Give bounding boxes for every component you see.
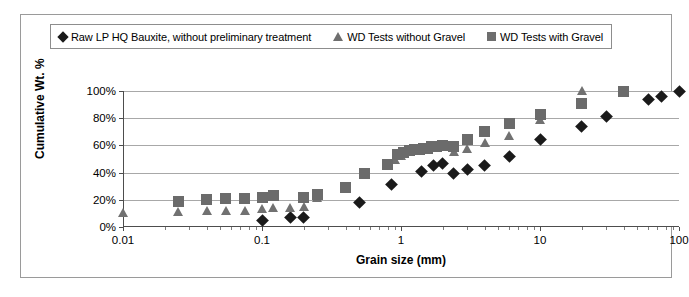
data-point <box>462 134 473 145</box>
x-tick-minor <box>624 227 625 230</box>
x-tick-minor <box>359 227 360 230</box>
x-tick-minor <box>370 227 371 230</box>
chart-legend: Raw LP HQ Bauxite, without preliminary t… <box>50 24 612 49</box>
x-tick-minor <box>165 227 166 230</box>
triangle-marker-icon <box>333 32 343 41</box>
data-point <box>173 196 184 207</box>
x-tick-minor <box>534 227 535 230</box>
data-point <box>382 159 393 170</box>
x-tick-minor <box>467 227 468 230</box>
x-tick-minor <box>666 227 667 230</box>
plot-area: 0%20%40%60%80%100% 0.010.1110100 <box>123 91 679 227</box>
y-tick-label: 0% <box>99 221 116 233</box>
data-point <box>285 203 295 212</box>
data-point <box>618 86 629 97</box>
x-tick-minor <box>485 227 486 230</box>
data-point <box>577 86 587 95</box>
x-tick-minor <box>509 227 510 230</box>
data-point <box>268 190 279 201</box>
gridline <box>123 173 679 174</box>
gridline <box>123 91 679 92</box>
data-point <box>173 207 183 216</box>
x-tick-minor <box>189 227 190 230</box>
diamond-marker-icon <box>57 31 68 42</box>
data-point <box>535 109 546 120</box>
data-point <box>340 182 351 193</box>
y-tick-label: 40% <box>93 167 116 179</box>
data-point <box>448 141 459 152</box>
x-tick-minor <box>443 227 444 230</box>
x-tick-minor <box>582 227 583 230</box>
x-tick-minor <box>606 227 607 230</box>
legend-item-wd-tests-with-gravel[interactable]: WD Tests with Gravel <box>487 31 603 43</box>
data-point <box>118 208 128 217</box>
y-tick-label: 80% <box>93 112 116 124</box>
data-point <box>220 193 231 204</box>
y-tick-label: 60% <box>93 139 116 151</box>
data-point <box>462 144 472 153</box>
data-point <box>437 140 448 151</box>
x-tick-minor <box>207 227 208 230</box>
x-axis-line <box>123 226 679 227</box>
y-tick-label: 20% <box>93 194 116 206</box>
legend-label: WD Tests without Gravel <box>347 31 465 43</box>
x-tick-label: 0.01 <box>112 234 134 246</box>
x-tick-minor <box>648 227 649 230</box>
data-point <box>479 126 490 137</box>
x-axis-title: Grain size (mm) <box>123 253 679 267</box>
data-point <box>221 206 231 215</box>
x-tick-minor <box>518 227 519 230</box>
x-tick-minor <box>346 227 347 230</box>
square-marker-icon <box>487 32 496 41</box>
x-tick-minor <box>379 227 380 230</box>
data-point <box>576 98 587 109</box>
x-tick <box>679 227 680 231</box>
x-tick-minor <box>256 227 257 230</box>
x-tick-minor <box>220 227 221 230</box>
x-tick-label: 10 <box>534 234 547 246</box>
x-tick-minor <box>231 227 232 230</box>
x-tick-minor <box>527 227 528 230</box>
data-point <box>257 192 268 203</box>
y-axis-title: Cumulative Wt. % <box>33 58 47 159</box>
x-tick-label: 0.1 <box>254 234 270 246</box>
data-point <box>257 204 267 213</box>
legend-label: Raw LP HQ Bauxite, without preliminary t… <box>71 31 311 43</box>
x-tick-minor <box>304 227 305 230</box>
x-tick-minor <box>388 227 389 230</box>
legend-item-raw-lp-hq-bauxite[interactable]: Raw LP HQ Bauxite, without preliminary t… <box>59 31 311 43</box>
data-point <box>298 192 309 203</box>
data-point <box>240 206 250 215</box>
x-tick <box>123 227 124 231</box>
gridline <box>123 118 679 119</box>
x-tick <box>540 227 541 231</box>
data-point <box>312 189 323 200</box>
data-point <box>504 118 515 129</box>
x-tick-minor <box>673 227 674 230</box>
y-tick-label: 100% <box>87 85 116 97</box>
y-axis-line <box>123 91 124 227</box>
x-tick-minor <box>249 227 250 230</box>
x-tick-label: 100 <box>669 234 688 246</box>
data-point <box>239 193 250 204</box>
chart-figure: Raw LP HQ Bauxite, without preliminary t… <box>20 14 672 278</box>
legend-item-wd-tests-without-gravel[interactable]: WD Tests without Gravel <box>333 31 465 43</box>
data-point <box>201 194 212 205</box>
x-tick-minor <box>395 227 396 230</box>
data-point <box>504 131 514 140</box>
x-tick-minor <box>637 227 638 230</box>
legend-label: WD Tests with Gravel <box>500 31 603 43</box>
x-tick-minor <box>657 227 658 230</box>
x-tick-label: 1 <box>398 234 404 246</box>
x-tick-minor <box>328 227 329 230</box>
x-tick-minor <box>498 227 499 230</box>
data-point <box>202 206 212 215</box>
data-point <box>480 138 490 147</box>
x-tick <box>401 227 402 231</box>
data-point <box>299 202 309 211</box>
x-tick <box>262 227 263 231</box>
x-tick-minor <box>240 227 241 230</box>
data-point <box>359 168 370 179</box>
data-point <box>268 203 278 212</box>
